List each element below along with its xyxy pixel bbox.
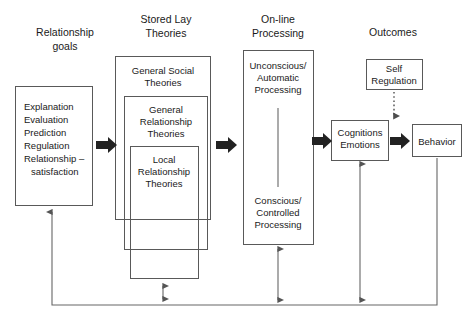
goal-item-relationship: Relationship – — [24, 153, 85, 164]
column-header-line1: On-line — [261, 13, 295, 25]
column-header-line2: goals — [52, 40, 77, 52]
general-social-theories-line2: Theories — [145, 77, 182, 88]
self-regulation-box: Self Regulation — [367, 60, 423, 90]
behavior-box: Behavior — [413, 125, 462, 157]
goal-item-explanation: Explanation — [24, 101, 74, 112]
online-processing-box: Unconscious/ Automatic Processing Consci… — [244, 51, 314, 245]
column-header-line2: Theories — [146, 27, 187, 39]
local-relationship-theories-line1: Local — [153, 154, 176, 165]
column-header-outcomes: Outcomes — [369, 26, 417, 38]
diagram-canvas: Relationship goals Stored Lay Theories O… — [0, 0, 475, 323]
emotions-line: Emotions — [340, 139, 380, 150]
self-regulation-line1: Self — [386, 63, 403, 74]
general-relationship-theories-line2: Relationship — [140, 116, 192, 127]
theories-to-processing-arrow — [216, 137, 237, 153]
column-header-line1: Relationship — [36, 26, 94, 38]
unconscious-line1: Unconscious/ — [249, 60, 306, 71]
conscious-line3: Processing — [255, 219, 302, 230]
goal-item-regulation: Regulation — [24, 140, 69, 151]
conscious-line1: Conscious/ — [255, 195, 302, 206]
unconscious-line3: Processing — [255, 84, 302, 95]
conscious-line2: Controlled — [256, 207, 299, 218]
self-regulation-line2: Regulation — [371, 75, 416, 86]
cognitions-line: Cognitions — [338, 127, 383, 138]
local-relationship-theories-line2: Relationship — [138, 166, 190, 177]
unconscious-line2: Automatic — [257, 72, 299, 83]
local-relationship-theories-line3: Theories — [146, 178, 183, 189]
relationship-goals-box: Explanation Evaluation Prediction Regula… — [16, 87, 93, 206]
column-header-online-processing: On-line Processing — [252, 13, 304, 39]
goal-item-evaluation: Evaluation — [24, 114, 68, 125]
goal-item-prediction: Prediction — [24, 127, 66, 138]
general-relationship-theories-line1: General — [149, 104, 183, 115]
processing-to-cognitions-arrow — [312, 133, 332, 149]
column-header-line1: Stored Lay — [141, 13, 193, 25]
column-header-line1: Outcomes — [369, 26, 417, 38]
goals-to-theories-arrow — [96, 137, 117, 153]
cognitions-to-behavior-arrow — [390, 133, 410, 149]
column-header-relationship-goals: Relationship goals — [36, 26, 94, 52]
column-header-line2: Processing — [252, 27, 304, 39]
stored-lay-theories-group: General Social Theories General Relation… — [116, 57, 211, 279]
goal-item-satisfaction: satisfaction — [31, 166, 79, 177]
general-social-theories-line1: General Social — [132, 65, 194, 76]
column-header-stored-lay-theories: Stored Lay Theories — [141, 13, 193, 39]
cognitions-emotions-box: Cognitions Emotions — [332, 121, 389, 161]
general-relationship-theories-line3: Theories — [148, 128, 185, 139]
behavior-line: Behavior — [418, 136, 456, 147]
process-diagram: Relationship goals Stored Lay Theories O… — [0, 0, 475, 323]
